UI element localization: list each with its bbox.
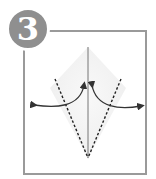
step-number-badge: 3 (6, 7, 50, 51)
step-number: 3 (17, 13, 39, 45)
